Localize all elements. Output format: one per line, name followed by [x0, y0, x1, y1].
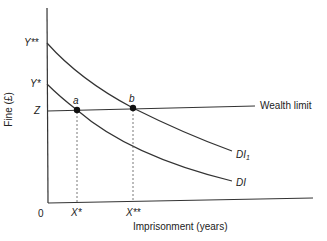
x-axis-label: Imprisonment (years) [133, 222, 227, 232]
y-double-star-tick: Y** [24, 38, 38, 48]
point-b [130, 105, 136, 111]
point-a-label: a [73, 96, 79, 106]
y-axis-label: Fine (£) [3, 88, 14, 132]
z-tick: Z [34, 106, 40, 116]
indifference-diagram [0, 0, 327, 241]
y-axis [47, 8, 48, 203]
x-axis [48, 198, 313, 203]
di1-label: DI1 [236, 150, 250, 161]
y-star-tick: Y* [30, 79, 41, 89]
x-star-tick: X* [71, 208, 82, 218]
origin-label: 0 [38, 209, 44, 219]
di1-label-subscript: 1 [246, 154, 250, 161]
di1-label-main: DI [236, 149, 246, 160]
wealth-limit-label: Wealth limit [260, 101, 312, 111]
point-a [74, 107, 80, 113]
di-label: DI [236, 178, 246, 188]
point-b-label: b [129, 94, 135, 104]
x-double-star-tick: X** [126, 208, 140, 218]
